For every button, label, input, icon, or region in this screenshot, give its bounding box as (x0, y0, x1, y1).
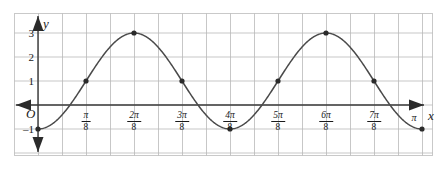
x-tick-numerator: π (84, 110, 89, 120)
x-tick-denominator: 8 (127, 122, 141, 133)
x-tick-label-pi: π (411, 112, 416, 123)
coordinate-graph-figure: y x O 3 2 1 –1 π 8 2π 8 3π 8 4π 8 5π 8 6… (0, 0, 447, 170)
x-tick-label-pi-over-8: π 8 (82, 110, 91, 133)
plot-border (15, 14, 433, 156)
x-axis-label: x (428, 109, 434, 122)
x-tick-label-2pi-over-8: 2π 8 (127, 110, 141, 133)
x-tick-numerator: 7π (369, 110, 379, 120)
x-tick-label-6pi-over-8: 6π 8 (319, 110, 333, 133)
x-tick-label-5pi-over-8: 5π 8 (271, 110, 285, 133)
curve-point-marker (323, 30, 328, 35)
x-tick-label-7pi-over-8: 7π 8 (367, 110, 381, 133)
x-tick-denominator: 8 (271, 122, 285, 133)
curve-point-marker (131, 30, 136, 35)
y-tick-label-2: 2 (22, 52, 34, 63)
x-tick-numerator: 4π (225, 110, 235, 120)
origin-label: O (26, 107, 35, 120)
graph-svg (0, 0, 447, 170)
curve-point-marker (419, 126, 424, 131)
y-tick-label-1: 1 (22, 76, 34, 87)
curve-point-marker (371, 78, 376, 83)
x-tick-numerator: 5π (273, 110, 283, 120)
curve-point-marker (35, 126, 40, 131)
x-tick-denominator: 8 (367, 122, 381, 133)
curve-point-marker (83, 78, 88, 83)
x-tick-denominator: 8 (82, 122, 91, 133)
x-tick-denominator: 8 (319, 122, 333, 133)
x-tick-label-4pi-over-8: 4π 8 (223, 110, 237, 133)
y-tick-label-3: 3 (22, 28, 34, 39)
x-tick-numerator: 3π (177, 110, 187, 120)
x-tick-numerator: 6π (321, 110, 331, 120)
y-tick-label-minus-1: –1 (17, 124, 34, 135)
x-tick-numerator: 2π (129, 110, 139, 120)
curve-point-marker (179, 78, 184, 83)
x-tick-label-3pi-over-8: 3π 8 (175, 110, 189, 133)
x-tick-denominator: 8 (175, 122, 189, 133)
x-tick-denominator: 8 (223, 122, 237, 133)
y-axis-label: y (43, 17, 49, 30)
curve-point-marker (275, 78, 280, 83)
